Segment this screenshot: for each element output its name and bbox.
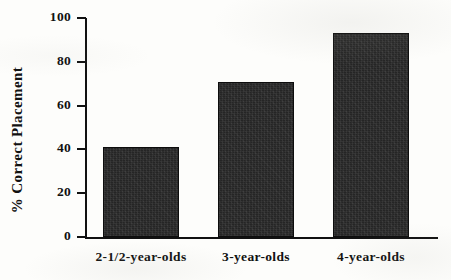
y-axis-tick-mark bbox=[77, 236, 86, 238]
y-axis-tick-label: 0 bbox=[31, 228, 71, 244]
y-axis-tick-label: 60 bbox=[31, 97, 71, 113]
bar-3 bbox=[333, 33, 409, 237]
y-axis-tick-label: 40 bbox=[31, 140, 71, 156]
y-axis-tick-mark bbox=[77, 17, 86, 19]
y-axis-tick-label: 20 bbox=[31, 184, 71, 200]
y-axis-tick-mark bbox=[77, 61, 86, 63]
y-axis-tick-mark bbox=[77, 105, 86, 107]
bar-chart-figure: % Correct Placement 020406080100 2-1/2-y… bbox=[0, 0, 451, 280]
y-axis-line bbox=[85, 18, 87, 238]
bar-1 bbox=[103, 147, 179, 237]
y-axis-tick-label: 80 bbox=[31, 53, 71, 69]
y-axis-title: % Correct Placement bbox=[0, 0, 34, 280]
y-axis-tick-label: 100 bbox=[31, 9, 71, 25]
y-axis-tick-mark bbox=[77, 148, 86, 150]
y-axis-tick-mark bbox=[77, 192, 86, 194]
x-axis-label-3: 4-year-olds bbox=[296, 249, 446, 265]
x-axis-line bbox=[85, 237, 438, 239]
bar-2 bbox=[218, 82, 294, 237]
